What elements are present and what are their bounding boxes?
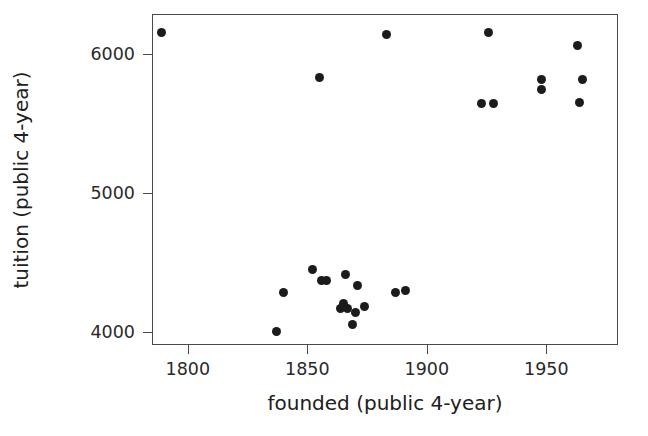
data-point (308, 265, 317, 274)
y-axis-label-container: tuition (public 4-year) (0, 14, 42, 345)
y-axis-tick-label: 6000 (45, 44, 135, 64)
data-point (341, 270, 350, 279)
x-axis-tick-label: 1900 (377, 359, 477, 379)
data-point (401, 286, 410, 295)
y-axis-tick (143, 332, 152, 333)
data-point (382, 30, 391, 39)
x-axis-label: founded (public 4-year) (152, 391, 618, 415)
y-axis-tick-label: 5000 (45, 183, 135, 203)
y-axis-tick (143, 193, 152, 194)
data-point (351, 308, 360, 317)
y-axis-label: tuition (public 4-year) (9, 71, 33, 288)
x-axis-tick (188, 345, 189, 354)
x-axis-tick-label: 1950 (496, 359, 596, 379)
x-axis-tick-label: 1850 (257, 359, 357, 379)
data-point (322, 276, 331, 285)
data-point (489, 99, 498, 108)
data-point (575, 98, 584, 107)
data-point (537, 85, 546, 94)
x-axis-tick (427, 345, 428, 354)
data-point (272, 327, 281, 336)
data-point (360, 302, 369, 311)
x-axis-tick (307, 345, 308, 354)
data-point (353, 281, 362, 290)
x-axis-tick-label: 1800 (138, 359, 238, 379)
data-point (537, 75, 546, 84)
scatter-plot-figure: tuition (public 4-year) 400050006000 180… (0, 0, 648, 436)
y-axis-tick-label: 4000 (45, 322, 135, 342)
plot-data-area (152, 14, 618, 345)
data-point (279, 288, 288, 297)
data-point (315, 73, 324, 82)
x-axis-tick (546, 345, 547, 354)
data-point (477, 99, 486, 108)
data-point (348, 320, 357, 329)
data-point (157, 28, 166, 37)
data-point (578, 75, 587, 84)
y-axis-tick (143, 54, 152, 55)
data-point (573, 41, 582, 50)
data-point (391, 288, 400, 297)
data-point (484, 28, 493, 37)
